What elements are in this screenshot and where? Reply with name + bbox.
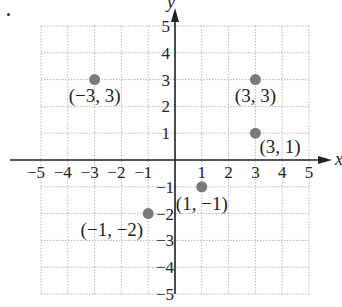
y-tick-label: −3 [156, 231, 174, 250]
data-point [196, 181, 207, 192]
y-tick-label: 3 [162, 71, 171, 90]
point-label: (3, 3) [235, 85, 276, 107]
point-label: (1, −1) [176, 193, 228, 215]
y-tick-label: 1 [162, 124, 171, 143]
point-label: (−1, −2) [81, 219, 144, 241]
x-axis-arrow-icon [318, 156, 332, 164]
x-tick-label: 3 [251, 163, 260, 182]
x-axis-label: x [334, 149, 342, 169]
x-tick-label: −1 [134, 163, 152, 182]
y-tick-label: −1 [156, 178, 174, 197]
y-axis-label: y [165, 0, 175, 12]
coordinate-plane: xy −5−4−3−2−11234554321−1−2−3−4−5 (−3, 3… [0, 0, 342, 307]
y-tick-label: 2 [162, 97, 171, 116]
y-tick-label: 5 [162, 17, 171, 36]
data-point [250, 74, 261, 85]
x-tick-label: 5 [305, 163, 314, 182]
y-tick-label: 4 [162, 44, 171, 63]
x-tick-label: −3 [81, 163, 99, 182]
data-points: (−3, 3)(3, 3)(3, 1)(1, −1)(−1, −2) [69, 74, 301, 241]
point-label: (3, 1) [259, 136, 300, 158]
y-tick-label: −5 [156, 285, 174, 304]
x-tick-label: −4 [54, 163, 73, 182]
y-tick-label: −2 [156, 205, 174, 224]
y-tick-label: −4 [156, 258, 175, 277]
x-tick-label: 4 [278, 163, 287, 182]
x-tick-label: −2 [107, 163, 125, 182]
point-label: (−3, 3) [69, 85, 121, 107]
x-tick-label: 2 [224, 163, 233, 182]
x-tick-label: −5 [27, 163, 45, 182]
data-point [89, 74, 100, 85]
x-tick-label: 1 [198, 163, 207, 182]
data-point [143, 208, 154, 219]
